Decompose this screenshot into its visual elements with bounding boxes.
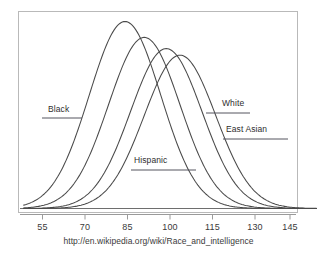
xtick-label-55: 55 (29, 222, 57, 232)
iq-distribution-figure: 55 70 85 100 115 130 145 Black Hispanic … (0, 0, 317, 258)
curve-label-white: White (222, 98, 244, 108)
xtick-label-70: 70 (71, 222, 99, 232)
x-axis-ticks (43, 215, 291, 220)
xtick-label-145: 145 (276, 222, 304, 232)
xtick-label-115: 115 (199, 222, 227, 232)
bell-curves-plot (0, 0, 317, 258)
xtick-label-85: 85 (114, 222, 142, 232)
xtick-label-100: 100 (156, 222, 184, 232)
source-url-caption: http://en.wikipedia.org/wiki/Race_and_in… (0, 236, 317, 246)
curve-label-hispanic: Hispanic (134, 155, 167, 165)
curve-label-east-asian: East Asian (226, 124, 267, 134)
curve-label-black: Black (48, 104, 69, 114)
xtick-label-130: 130 (241, 222, 269, 232)
